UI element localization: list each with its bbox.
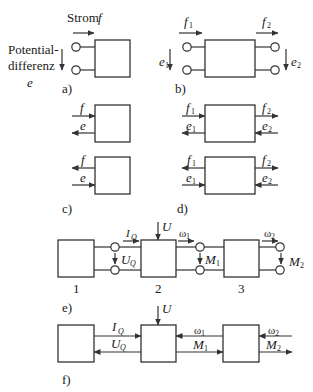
port-terminal	[111, 266, 119, 274]
block-3	[224, 240, 259, 277]
block-3	[223, 325, 259, 362]
port-terminal	[196, 243, 204, 251]
block-1	[58, 325, 94, 362]
f1-subscript: 1	[191, 107, 195, 116]
omega2-subscript: 2	[271, 232, 275, 241]
torque2-subscript: 2	[300, 261, 304, 270]
f2-subscript: 2	[267, 107, 271, 116]
panel-label: b)	[175, 81, 186, 96]
panel-c: f e f e c)	[62, 100, 130, 216]
port-terminal	[72, 43, 80, 51]
panel-d: f 1 e 1 f 2 e 2 f 1 e 1 f 2 e 2 d)	[177, 100, 278, 216]
block-1	[58, 240, 94, 277]
element-box	[95, 105, 130, 142]
f1-subscript: 1	[192, 159, 196, 168]
voltage-subscript: Q	[130, 259, 136, 268]
current-symbol: I	[111, 319, 117, 334]
current-subscript: Q	[118, 327, 124, 336]
effort-label-line1: Potential-	[8, 42, 59, 57]
block-number-3: 3	[238, 281, 245, 296]
e-symbol: e	[80, 118, 86, 133]
panel-label: e)	[62, 300, 72, 315]
e-symbol: e	[80, 170, 86, 185]
port-terminal	[196, 266, 204, 274]
f1-subscript: 1	[189, 21, 193, 30]
element-box	[205, 105, 255, 142]
effort-symbol: e	[27, 75, 33, 90]
port-terminal	[72, 66, 80, 74]
bond-graph-figure: Strom f Potential- differenz e a) f 1 f …	[0, 0, 313, 392]
input-u-symbol: U	[162, 219, 173, 234]
port-terminal	[183, 43, 191, 51]
torque1-subscript: 1	[216, 259, 220, 268]
f-symbol: f	[81, 152, 87, 167]
f2-subscript: 2	[267, 21, 271, 30]
e1-subscript: 1	[165, 61, 169, 70]
element-box	[95, 157, 130, 194]
panel-e: U I Q U Q ω 1 M 1 ω 2 M 2 1 2 3 e)	[58, 219, 304, 315]
block-2	[141, 325, 176, 362]
port-terminal	[111, 243, 119, 251]
panel-label: a)	[62, 81, 72, 96]
flow-symbol: f	[98, 10, 104, 25]
input-u-symbol: U	[162, 301, 173, 316]
element-box	[95, 40, 130, 77]
f2-subscript: 2	[267, 159, 271, 168]
port-terminal	[271, 66, 279, 74]
block-number-2: 2	[155, 281, 162, 296]
e2-subscript: 2	[297, 61, 301, 70]
f-symbol: f	[80, 100, 86, 115]
panel-b: f 1 f 2 e 1 e 2 b)	[159, 14, 301, 96]
element-box	[205, 40, 255, 77]
port-terminal	[276, 266, 284, 274]
block-number-1: 1	[73, 281, 80, 296]
port-terminal	[271, 43, 279, 51]
effort-label-line2: differenz	[8, 58, 55, 73]
block-2	[141, 240, 176, 277]
voltage-subscript: Q	[120, 343, 126, 352]
panel-label: d)	[177, 201, 188, 216]
flow-label: Strom	[67, 10, 99, 25]
panel-label: c)	[62, 201, 72, 216]
port-terminal	[183, 66, 191, 74]
element-box	[205, 157, 255, 194]
panel-label: f)	[62, 372, 71, 387]
omega1-subscript: 1	[186, 232, 190, 241]
panel-f: U I Q U Q ω 1 M 1 ω 2 M 2 f)	[58, 301, 292, 387]
port-terminal	[276, 243, 284, 251]
panel-a: Strom f Potential- differenz e a)	[8, 10, 130, 96]
